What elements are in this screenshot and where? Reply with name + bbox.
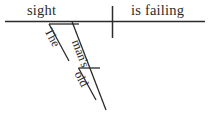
predicate-label: is failing bbox=[131, 3, 184, 18]
sentence-diagram: sight is failing The man's old bbox=[0, 0, 210, 113]
subject-label: sight bbox=[27, 3, 56, 18]
